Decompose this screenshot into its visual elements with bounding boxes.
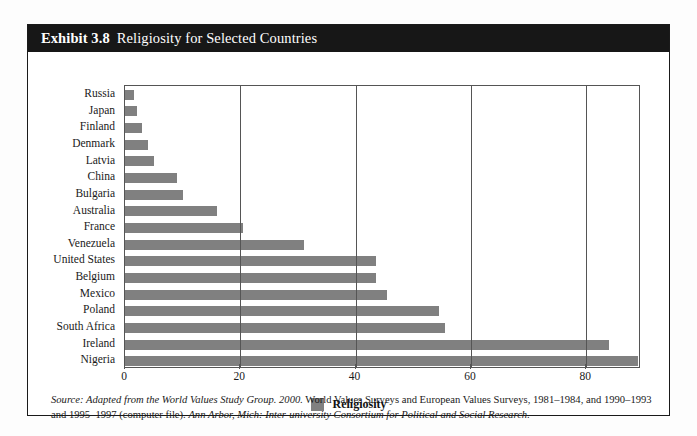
x-axis-label-20: 20 [234, 370, 246, 382]
source-note: Source: Adapted from the World Values St… [51, 393, 655, 422]
x-axis-tick-0 [124, 364, 125, 369]
x-axis-label-40: 40 [349, 370, 361, 382]
plot-area [124, 85, 640, 368]
exhibit-page: Exhibit 3.8 Religiosity for Selected Cou… [0, 0, 697, 436]
bar-venezuela [125, 240, 304, 250]
source-line-2-lead: and 1995–1997 (computer file). [51, 409, 188, 420]
exhibit-card: Exhibit 3.8 Religiosity for Selected Cou… [27, 24, 670, 416]
source-line-1-rest: World Values Surveys and European Values… [303, 394, 652, 405]
x-axis-label-0: 0 [121, 370, 127, 382]
bar-row [125, 336, 641, 354]
y-axis-label-united-states: United States [53, 251, 115, 269]
x-axis-label-60: 60 [464, 370, 476, 382]
bar-france [125, 223, 243, 233]
bar-row [125, 153, 641, 171]
y-axis-label-japan: Japan [89, 102, 115, 120]
y-axis-label-poland: Poland [83, 301, 115, 319]
x-axis-labels: 020406080 [124, 370, 640, 388]
bar-russia [125, 90, 134, 100]
y-axis-label-venezuela: Venezuela [68, 235, 115, 253]
exhibit-number: Exhibit 3.8 [41, 30, 110, 47]
x-axis-tick-40 [355, 364, 356, 369]
y-axis-label-russia: Russia [84, 85, 115, 103]
bar-row [125, 203, 641, 221]
bar-row [125, 286, 641, 304]
bar-japan [125, 106, 137, 116]
bar-row [125, 119, 641, 137]
bars-layer [125, 86, 639, 367]
source-line-2: and 1995–1997 (computer file). Ann Arbor… [51, 409, 530, 420]
bar-south-africa [125, 323, 445, 333]
bar-belgium [125, 273, 376, 283]
x-axis-tick-60 [470, 364, 471, 369]
bar-row [125, 302, 641, 320]
y-axis-label-bulgaria: Bulgaria [75, 185, 115, 203]
exhibit-title: Religiosity for Selected Countries [117, 30, 317, 47]
bar-mexico [125, 290, 387, 300]
exhibit-header: Exhibit 3.8 Religiosity for Selected Cou… [28, 25, 669, 52]
bar-ireland [125, 340, 609, 350]
bar-row [125, 319, 641, 337]
bar-china [125, 173, 177, 183]
y-axis-labels: RussiaJapanFinlandDenmarkLatviaChinaBulg… [28, 85, 120, 368]
y-axis-label-australia: Australia [73, 202, 115, 220]
x-axis-tick-20 [239, 364, 240, 369]
y-axis-label-mexico: Mexico [80, 285, 115, 303]
bar-row [125, 252, 641, 270]
bar-row [125, 169, 641, 187]
y-axis-label-nigeria: Nigeria [81, 351, 115, 369]
bar-united-states [125, 256, 376, 266]
gridline-20 [240, 86, 241, 367]
source-line-1: Source: Adapted from the World Values St… [51, 394, 652, 405]
y-axis-label-china: China [88, 168, 115, 186]
x-axis-tick-80 [585, 364, 586, 369]
bar-row [125, 136, 641, 154]
gridline-60 [471, 86, 472, 367]
y-axis-label-finland: Finland [80, 118, 115, 136]
y-axis-label-south-africa: South Africa [57, 318, 115, 336]
bar-row [125, 103, 641, 121]
x-axis-label-80: 80 [579, 370, 591, 382]
y-axis-label-latvia: Latvia [86, 152, 115, 170]
source-lead-italic: Source: Adapted from the World Values St… [51, 394, 303, 405]
y-axis-label-france: France [84, 218, 115, 236]
bar-poland [125, 306, 439, 316]
bar-australia [125, 206, 217, 216]
bar-latvia [125, 156, 154, 166]
y-axis-label-ireland: Ireland [82, 335, 115, 353]
bar-row [125, 269, 641, 287]
bar-row [125, 352, 641, 370]
gridline-80 [586, 86, 587, 367]
bar-finland [125, 123, 142, 133]
bar-bulgaria [125, 190, 183, 200]
bar-row [125, 219, 641, 237]
chart-body: RussiaJapanFinlandDenmarkLatviaChinaBulg… [28, 52, 669, 366]
bar-row [125, 236, 641, 254]
y-axis-label-belgium: Belgium [75, 268, 115, 286]
source-line-2-italic: Ann Arbor, Mich: Inter-university Consor… [188, 409, 529, 420]
bar-nigeria [125, 356, 638, 366]
bar-row [125, 86, 641, 104]
gridline-40 [356, 86, 357, 367]
bar-denmark [125, 140, 148, 150]
y-axis-label-denmark: Denmark [72, 135, 115, 153]
bar-row [125, 186, 641, 204]
